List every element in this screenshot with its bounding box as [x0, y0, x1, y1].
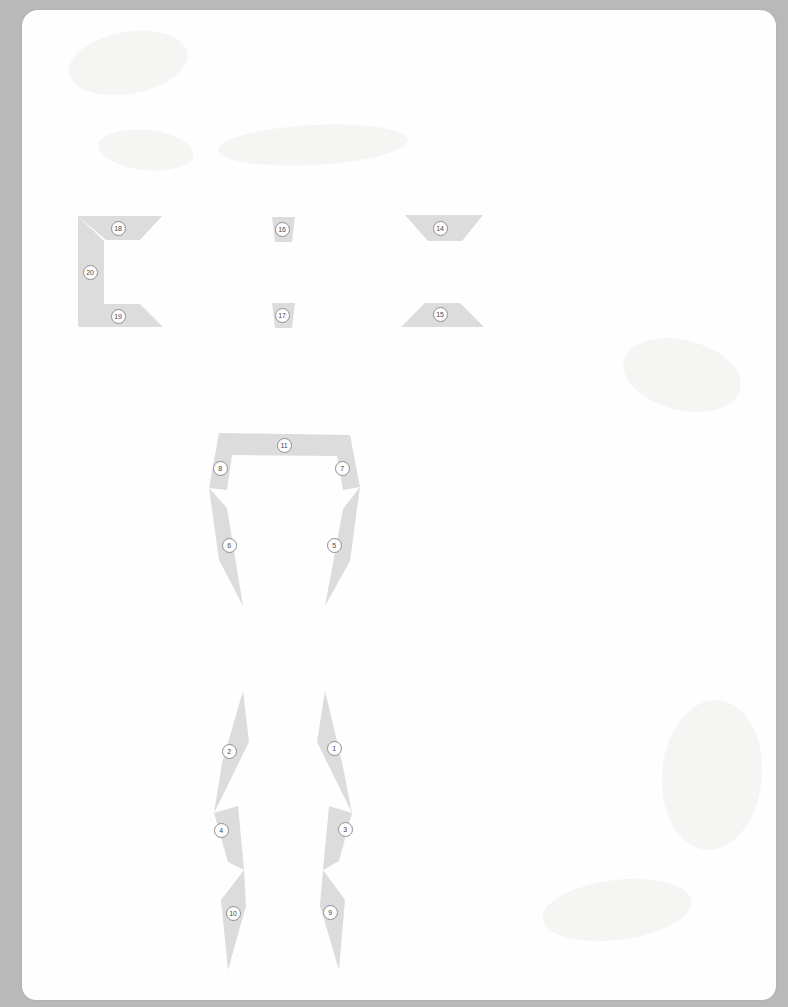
segment-8-badge: 8	[213, 461, 228, 476]
segment-11-badge: 11	[277, 438, 292, 453]
segment-7-badge: 7	[335, 461, 350, 476]
segment-9-shape	[320, 870, 345, 970]
segmented-figure-diagram: 182019161714151187652143109	[0, 0, 788, 1007]
segment-shape-layer	[78, 215, 484, 970]
segment-4-badge: 4	[214, 823, 229, 838]
segment-18-badge: 18	[111, 221, 126, 236]
segment-2-badge: 2	[222, 744, 237, 759]
segment-4-shape	[214, 806, 244, 870]
segment-3-badge: 3	[338, 822, 353, 837]
segment-15-badge: 15	[433, 307, 448, 322]
segment-9-badge: 9	[323, 905, 338, 920]
segment-17-badge: 17	[275, 308, 290, 323]
segment-3-shape	[323, 806, 352, 870]
legs-group	[214, 691, 352, 970]
segment-14-badge: 14	[433, 221, 448, 236]
segment-20-badge: 20	[83, 265, 98, 280]
diagram-svg	[0, 0, 788, 1007]
segment-16-badge: 16	[275, 222, 290, 237]
segment-6-badge: 6	[222, 538, 237, 553]
torso-group	[209, 433, 360, 606]
segment-5-badge: 5	[327, 538, 342, 553]
segment-10-badge: 10	[226, 906, 241, 921]
segment-19-badge: 19	[111, 309, 126, 324]
segment-1-badge: 1	[327, 741, 342, 756]
